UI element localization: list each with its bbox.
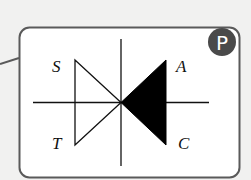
diagram-stage: S T A C P xyxy=(0,0,251,180)
label-a: A xyxy=(175,57,187,76)
connector-line xyxy=(0,58,19,64)
badge-label: P xyxy=(216,31,228,55)
label-c: C xyxy=(178,134,190,153)
label-t: T xyxy=(52,134,63,153)
label-s: S xyxy=(52,57,61,76)
badge-p: P xyxy=(208,28,236,56)
diagram-canvas: S T A C P xyxy=(0,0,251,180)
